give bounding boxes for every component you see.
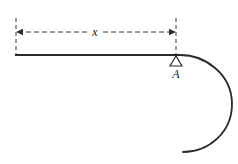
dimension-arrowhead-left-icon xyxy=(16,29,23,35)
beam-diagram-figure: x A xyxy=(0,0,238,164)
pin-support-triangle-icon xyxy=(170,56,182,66)
beam-diagram-canvas: x A xyxy=(0,0,238,164)
beam-curved-segment xyxy=(180,55,232,152)
dimension-arrowhead-right-icon xyxy=(169,29,176,35)
support-label-a: A xyxy=(171,67,180,81)
dimension-label-x: x xyxy=(91,25,98,39)
